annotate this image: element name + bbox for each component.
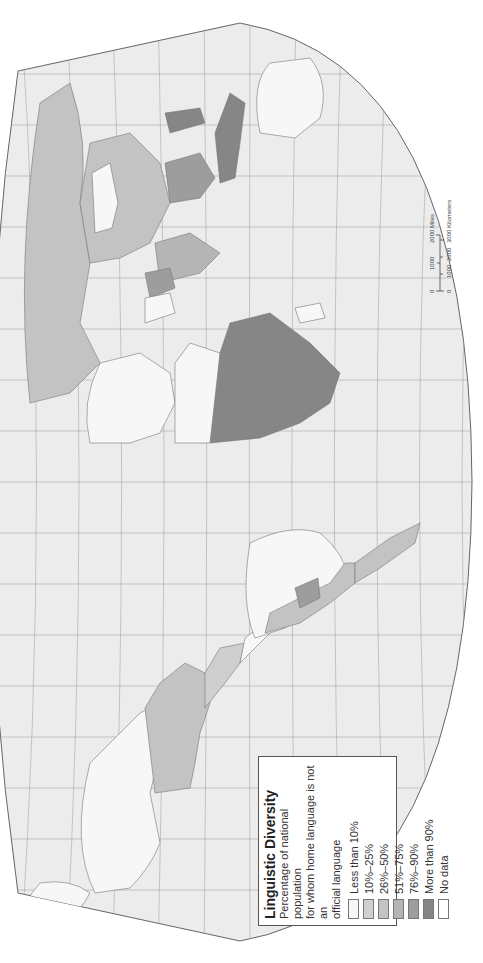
- legend-label: More than 90%: [423, 819, 435, 894]
- legend-item: 26%–50%: [376, 763, 391, 919]
- scale-km-label: 1000: [446, 264, 452, 278]
- legend-subtitle: Percentage of national population for wh…: [278, 763, 343, 919]
- legend-label: No data: [438, 855, 450, 894]
- legend-title: Linguistic Diversity: [263, 763, 278, 919]
- legend-label: 26%–50%: [378, 844, 390, 894]
- scale-miles-label: 0: [429, 289, 435, 293]
- legend-item: More than 90%: [421, 763, 436, 919]
- legend-label: Less than 10%: [348, 821, 360, 894]
- legend-swatch: [423, 899, 434, 919]
- legend-swatch: [363, 899, 374, 919]
- map-stage: Linguistic Diversity Percentage of natio…: [0, 0, 483, 963]
- legend-swatch: [348, 899, 359, 919]
- legend-item: 51%–75%: [391, 763, 406, 919]
- legend-item: 76%–90%: [406, 763, 421, 919]
- legend-swatch: [438, 899, 449, 919]
- legend-swatch: [408, 899, 419, 919]
- legend-label: 10%–25%: [363, 844, 375, 894]
- scale-km-label: 0: [446, 289, 452, 293]
- legend-item: No data: [436, 763, 451, 919]
- legend-subtitle-line: Percentage of national population: [278, 763, 304, 919]
- legend-swatch: [393, 899, 404, 919]
- legend-subtitle-line: for whom home language is not an: [304, 763, 330, 919]
- legend-item: 10%–25%: [361, 763, 376, 919]
- legend-label: 76%–90%: [408, 844, 420, 894]
- region-greenland: [27, 882, 90, 925]
- legend: Linguistic Diversity Percentage of natio…: [258, 756, 397, 926]
- legend-label: 51%–75%: [393, 844, 405, 894]
- scale-km-label: 2000: [446, 247, 452, 261]
- legend-item: Less than 10%: [346, 763, 361, 919]
- legend-subtitle-line: official language: [330, 763, 343, 919]
- scale-km-label: 3000 Kilometers: [446, 200, 452, 243]
- scale-miles-label: 2000 Miles: [429, 214, 435, 243]
- scale-miles-label: 1000: [429, 256, 435, 270]
- legend-swatch: [378, 899, 389, 919]
- scale-bar: 0 1000 2000 Miles 0 1000 2000 3000 Kilom…: [420, 183, 470, 303]
